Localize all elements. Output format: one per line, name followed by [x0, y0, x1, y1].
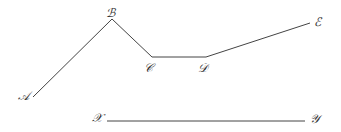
label-a: 𝒜 — [18, 89, 33, 103]
label-e: ℰ — [314, 15, 323, 29]
geometry-diagram: 𝒜 ℬ 𝒞 𝒟 ℰ 𝒳 𝒴 — [0, 0, 341, 132]
polyline-abcde — [33, 19, 310, 97]
label-c: 𝒞 — [144, 61, 156, 75]
label-y: 𝒴 — [310, 112, 323, 126]
label-b: ℬ — [106, 6, 117, 20]
label-x: 𝒳 — [92, 111, 106, 125]
label-d: 𝒟 — [198, 61, 210, 75]
